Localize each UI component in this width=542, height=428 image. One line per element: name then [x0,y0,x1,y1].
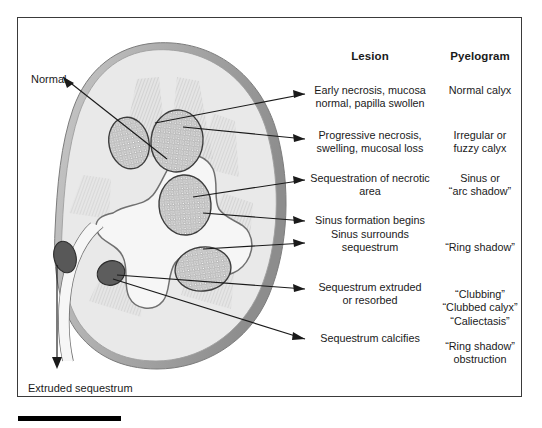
arrowhead-extruded [52,357,62,369]
label-extruded-sequestrum: Extruded sequestrum [28,382,133,394]
figure-root: Normal Extruded sequestrum Lesion Pyelog… [0,0,542,428]
pyelogram-row-1: Normal calyx [420,84,540,97]
lesion-row-4: Sinus formation begins [295,214,445,227]
pyelogram-row-5: “Ring shadow” [420,241,540,254]
label-normal: Normal [31,73,66,85]
pyelogram-row-6: “Clubbing” “Clubbed calyx” “Caliectasis” [420,288,540,328]
column-header-pyelogram: Pyelogram [420,50,540,62]
footer-rule [18,416,121,421]
pyelogram-row-7: “Ring shadow” obstruction [420,340,540,367]
pyelogram-row-3: Sinus or “arc shadow” [420,172,540,199]
pyelogram-row-2: Irregular or fuzzy calyx [420,129,540,156]
